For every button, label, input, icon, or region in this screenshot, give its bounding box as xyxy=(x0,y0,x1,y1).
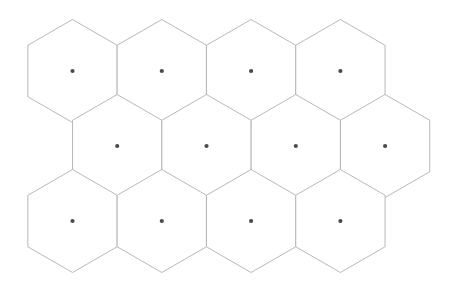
hex-center-dot-r2c2 xyxy=(204,144,208,148)
hex-center-dot-r1c4 xyxy=(338,69,342,73)
hex-center-dot-r2c3 xyxy=(294,144,298,148)
hex-center-dot-r1c2 xyxy=(160,69,164,73)
hex-center-dot-r3c4 xyxy=(338,219,342,223)
hex-center-dot-r3c2 xyxy=(160,219,164,223)
hex-center-dot-r1c3 xyxy=(249,69,253,73)
hex-grid-canvas xyxy=(0,0,458,284)
hex-center-dot-r2c4 xyxy=(383,144,387,148)
hexagonal-grid-diagram xyxy=(0,0,458,284)
hex-center-dot-r2c1 xyxy=(115,144,119,148)
hex-center-dot-r3c1 xyxy=(70,219,74,223)
hex-cells-group xyxy=(28,20,430,273)
hex-center-dot-r3c3 xyxy=(249,219,253,223)
hex-center-dot-r1c1 xyxy=(70,69,74,73)
